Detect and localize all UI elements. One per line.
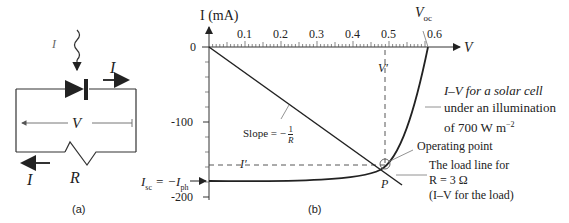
voltage-label: V xyxy=(72,116,81,131)
light-label: I xyxy=(52,38,56,50)
operating-point-label: Operating point xyxy=(417,140,493,152)
resistor-label: R xyxy=(70,170,80,186)
i-prime-label: I′ xyxy=(240,158,247,170)
x-tick-0.5: 0.5 xyxy=(381,28,396,40)
x-tick-0.4: 0.4 xyxy=(345,28,360,40)
voc-label: Voc xyxy=(415,6,432,23)
y-axis-label: I (mA) xyxy=(200,9,239,23)
caption-b: (b) xyxy=(308,204,321,215)
curve-annotation: I–V for a solar cell under an illuminati… xyxy=(444,82,556,136)
x-tick-0.6: 0.6 xyxy=(427,28,442,40)
y-tick-0: 0 xyxy=(190,41,196,53)
x-tick-0.2: 0.2 xyxy=(273,28,288,40)
x-axis-label: V xyxy=(464,41,473,55)
current-label-top: I xyxy=(110,60,115,76)
caption-a: (a) xyxy=(72,204,85,215)
load-line xyxy=(209,47,402,185)
x-tick-0.1: 0.1 xyxy=(237,28,252,40)
chart-axes xyxy=(202,27,460,200)
diode-symbol xyxy=(65,80,84,98)
current-label-bottom: I xyxy=(27,172,32,188)
load-line-annotation: The load line for R = 3 Ω (I–V for the l… xyxy=(429,158,514,203)
slope-label: Slope = −1R xyxy=(243,124,293,145)
isc-label: Isc = −Iph xyxy=(141,175,188,192)
circuit-diagram xyxy=(16,30,136,165)
y-tick-minus200: -200 xyxy=(171,191,193,203)
x-tick-0.3: 0.3 xyxy=(309,28,324,40)
operating-point-p: P xyxy=(381,178,388,190)
v-prime-label: V′ xyxy=(378,62,388,74)
y-tick-minus100: -100 xyxy=(171,116,193,128)
operating-point-guides xyxy=(209,50,385,165)
